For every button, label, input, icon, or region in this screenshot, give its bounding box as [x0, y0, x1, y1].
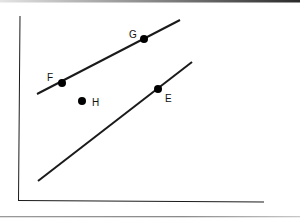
point-H: [78, 97, 86, 105]
point-E: [154, 85, 162, 93]
x-axis: [18, 201, 264, 203]
bottom-border: [0, 216, 300, 217]
diagram-canvas: F G E H: [0, 0, 307, 223]
point-F: [58, 79, 66, 87]
label-E: E: [165, 93, 172, 104]
label-G: G: [129, 29, 137, 40]
point-G: [140, 35, 148, 43]
label-F: F: [47, 72, 53, 83]
y-axis: [19, 16, 21, 201]
label-H: H: [92, 97, 99, 108]
top-border: [0, 0, 300, 3]
